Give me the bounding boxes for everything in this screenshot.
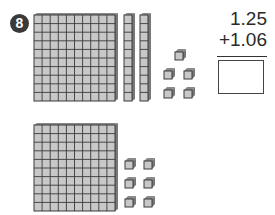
ones-cube — [183, 68, 195, 80]
ones-cube — [143, 158, 155, 170]
ones-cube — [143, 177, 155, 189]
addend-2: +1.06 — [219, 29, 267, 50]
ones-cube — [143, 196, 155, 208]
ones-cube — [174, 49, 186, 61]
tens-rod-2 — [139, 13, 151, 103]
hundreds-flat-top — [32, 13, 118, 103]
ones-cube — [163, 68, 175, 80]
ones-cube — [183, 87, 195, 99]
ones-cube — [124, 158, 136, 170]
sum-line — [217, 56, 267, 57]
ones-cube — [163, 87, 175, 99]
addend-1: 1.25 — [219, 8, 267, 29]
ones-cube — [124, 177, 136, 189]
answer-box[interactable] — [218, 60, 264, 94]
problem-number-badge: 8 — [10, 14, 29, 33]
hundreds-flat-bottom — [32, 123, 118, 213]
addition-problem: 1.25 +1.06 — [219, 8, 267, 50]
ones-cube — [124, 196, 136, 208]
tens-rod-1 — [123, 13, 135, 103]
